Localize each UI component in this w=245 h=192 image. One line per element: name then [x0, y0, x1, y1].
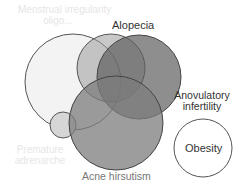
alopecia-label: Alopecia [112, 20, 154, 31]
menstrual-label-line1: Menstrual irregularity [18, 4, 98, 15]
menstrual-label: Menstrual irregularity oligo... [18, 4, 98, 26]
menstrual-label-line2: oligo... [18, 15, 98, 26]
acne-hirsutism-label: Acne hirsutism [82, 171, 151, 182]
premature-label-line1: Premature [12, 144, 68, 155]
anovulatory-label: Anovulatory infertility [172, 90, 232, 112]
acne-hirsutism-circle [69, 76, 163, 170]
premature-adrenarche-label: Premature adrenarche [12, 144, 68, 166]
premature-label-line2: adrenarche [12, 155, 68, 166]
obesity-label: Obesity [185, 143, 222, 154]
anovulatory-label-line2: infertility [172, 101, 232, 112]
